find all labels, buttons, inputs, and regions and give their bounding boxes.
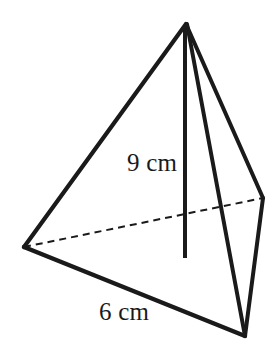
back-right-lateral-edge [186,24,263,198]
height-measurement-label: 9 cm [127,150,177,176]
front-right-lateral-edge [187,24,245,336]
base-edge-measurement-label: 6 cm [99,299,149,325]
left-lateral-edge [24,24,186,247]
right-base-edge [245,198,263,336]
pyramid-figure: 9 cm 6 cm [0,0,277,360]
